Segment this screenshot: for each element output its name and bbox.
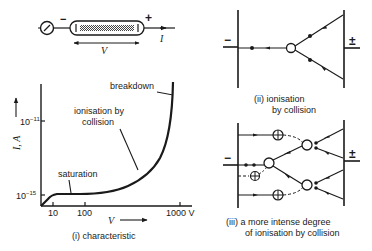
y-tick-1e-15: 10−15 (16, 190, 37, 201)
panel-ionisation: − ± (ii) ionisation by collision (223, 10, 360, 115)
characteristic-curve (41, 82, 173, 206)
x-axis-label: V (108, 215, 116, 226)
electron-dot (250, 46, 254, 50)
gas-molecule (302, 180, 312, 190)
annotation-saturation: saturation (58, 169, 98, 179)
y-axis-label: I, A (11, 135, 22, 151)
panel-intense-ionisation: − ± (223, 120, 360, 238)
gas-molecule (264, 158, 274, 168)
tube-circuit: − + I V (38, 11, 175, 56)
voltage-label: V (101, 45, 109, 56)
tube-plus-label: + (145, 11, 152, 25)
panel3-caption-line2: of ionisation by collision (245, 228, 340, 238)
tube-gas-hatch (80, 25, 134, 31)
x-tick-100: 100 (77, 208, 92, 218)
annotation-breakdown: breakdown (110, 81, 154, 91)
x-tick-10: 10 (48, 208, 58, 218)
annotation-ionisation-line1: ionisation by (74, 106, 125, 116)
x-tick-1000: 1000 V (166, 208, 195, 218)
panel3-caption-line1: (iii) a more intense degree (226, 217, 331, 227)
cathode-minus-label: − (224, 33, 231, 47)
characteristic-graph: 10−11 10−15 I, A 10 100 1000 V V breakdo… (11, 81, 195, 241)
gas-molecule (287, 44, 296, 53)
panel2-caption-line1: (ii) ionisation (254, 94, 305, 104)
diagram-canvas: − + I V 10−11 10−15 I, A 10 100 1000 V V (0, 0, 372, 251)
panel2-caption-line2: by collision (272, 105, 316, 115)
current-label: I (159, 33, 164, 44)
y-tick-1e-11: 10−11 (20, 116, 40, 127)
cathode3-minus-label: − (224, 151, 231, 165)
gas-molecule (302, 140, 312, 150)
tube-minus-label: − (60, 13, 66, 25)
graph-caption: (i) characteristic (72, 231, 136, 241)
annotation-ionisation-line2: collision (82, 117, 114, 127)
anode3-plus-label: ± (349, 147, 356, 161)
anode-plus-label: ± (349, 34, 356, 48)
